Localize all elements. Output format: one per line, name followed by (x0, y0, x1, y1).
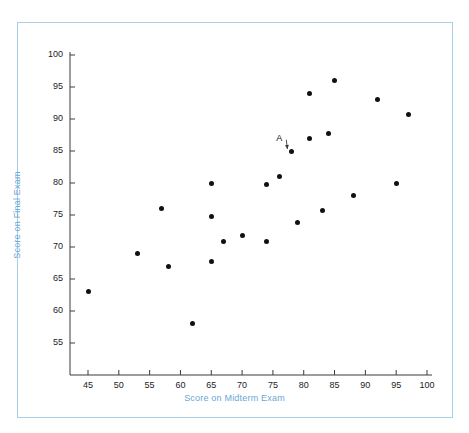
y-tick-label: 85 (37, 145, 63, 155)
data-point (332, 78, 337, 83)
x-tick-label: 75 (260, 380, 286, 390)
data-point (375, 97, 380, 102)
x-tick-label: 45 (75, 380, 101, 390)
annotation-arrow-a (285, 140, 289, 149)
y-axis-title: Score on Final Exam (12, 135, 22, 295)
tick-marks (70, 55, 427, 375)
y-tick-label: 75 (37, 209, 63, 219)
x-tick-label: 70 (229, 380, 255, 390)
x-axis-title: Score on Midterm Exam (0, 393, 469, 403)
data-point (277, 174, 282, 179)
data-point (307, 91, 312, 96)
x-tick-label: 90 (352, 380, 378, 390)
data-point (209, 181, 214, 186)
x-tick-label: 55 (137, 380, 163, 390)
x-tick-label: 80 (291, 380, 317, 390)
x-tick-label: 60 (167, 380, 193, 390)
data-point (295, 220, 300, 225)
data-point (351, 193, 356, 198)
y-tick-label: 90 (37, 113, 63, 123)
data-point (190, 321, 195, 326)
data-point (307, 136, 312, 141)
data-point (264, 182, 269, 187)
y-tick-label: 100 (37, 49, 63, 59)
x-tick-label: 100 (414, 380, 440, 390)
data-point (320, 208, 325, 213)
data-point (135, 251, 140, 256)
plot-axes-overlay (0, 0, 469, 433)
x-tick-label: 50 (106, 380, 132, 390)
data-point (394, 181, 399, 186)
data-point (209, 259, 214, 264)
y-tick-label: 55 (37, 337, 63, 347)
data-point (221, 239, 226, 244)
data-point (209, 214, 214, 219)
x-tick-label: 95 (383, 380, 409, 390)
x-tick-label: 65 (198, 380, 224, 390)
data-point (86, 289, 91, 294)
annotation-label-a: A (276, 133, 282, 143)
data-point (289, 149, 294, 154)
x-tick-label: 85 (322, 380, 348, 390)
data-point (240, 233, 245, 238)
scatter-plot: 556065707580859095100 455055606570758085… (0, 0, 469, 433)
y-tick-label: 80 (37, 177, 63, 187)
y-tick-label: 65 (37, 273, 63, 283)
data-point (159, 206, 164, 211)
data-point (264, 239, 269, 244)
data-point (166, 264, 171, 269)
data-point (326, 131, 331, 136)
y-tick-label: 60 (37, 305, 63, 315)
data-point (406, 112, 411, 117)
y-tick-label: 70 (37, 241, 63, 251)
y-tick-label: 95 (37, 81, 63, 91)
